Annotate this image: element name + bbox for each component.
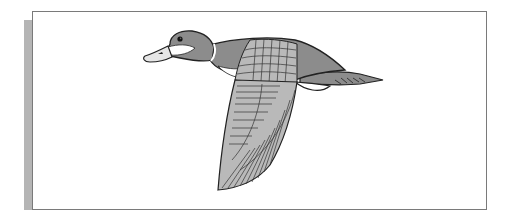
duck-illustration [0, 0, 514, 219]
duck-bill [144, 46, 172, 62]
duck-wing-primaries [218, 80, 297, 190]
duck-eye-highlight [180, 38, 182, 40]
duck-eye [177, 36, 182, 41]
